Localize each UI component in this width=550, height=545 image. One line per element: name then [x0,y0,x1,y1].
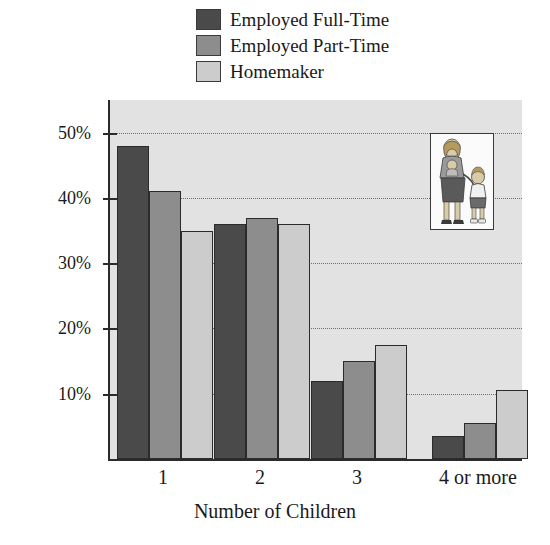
legend-swatch-employed-part-time [196,35,221,56]
x-tick-label: 3 [309,466,405,489]
y-tick-20%: 20% [103,328,117,330]
bar [496,390,528,459]
x-tick-label: 4 or more [430,466,526,489]
y-tick-50%: 50% [103,133,117,135]
mother-and-child-figure-icon [431,134,493,229]
y-tick-label: 20% [58,318,91,339]
chart-legend: Employed Full-Time Employed Part-Time Ho… [196,6,496,84]
legend-label-employed-part-time: Employed Part-Time [230,36,389,55]
bar [432,436,464,459]
legend-item-homemaker: Homemaker [196,58,496,84]
bar [149,191,181,459]
legend-swatch-homemaker [196,61,221,82]
mother-with-children-illustration [430,133,494,230]
y-tick-label: 50% [58,123,91,144]
bar [246,218,278,460]
bar [311,381,343,459]
bar [117,146,149,459]
legend-swatch-employed-full-time [196,9,221,30]
legend-item-employed-full-time: Employed Full-Time [196,6,496,32]
bar [278,224,310,459]
legend-label-homemaker: Homemaker [230,62,324,81]
y-tick-10%: 10% [103,394,117,396]
x-tick-label: 1 [115,466,211,489]
y-tick-label: 30% [58,253,91,274]
y-tick-30%: 30% [103,263,117,265]
y-tick-label: 10% [58,384,91,405]
legend-item-employed-part-time: Employed Part-Time [196,32,496,58]
y-tick-40%: 40% [103,198,117,200]
plot-area: 10%20%30%40%50% [108,100,522,461]
chart-page: Employed Full-Time Employed Part-Time Ho… [0,0,550,545]
y-tick-label: 40% [58,188,91,209]
x-axis-title: Number of Children [0,500,550,523]
legend-label-employed-full-time: Employed Full-Time [230,10,389,29]
x-tick-label: 2 [212,466,308,489]
bar [375,345,407,459]
bar [343,361,375,459]
bar [464,423,496,459]
bar [181,231,213,459]
bar [214,224,246,459]
